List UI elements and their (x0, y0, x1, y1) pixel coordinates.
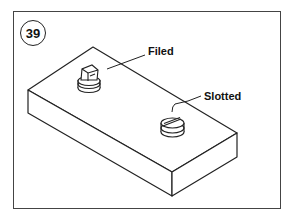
filed-label: Filed (148, 45, 174, 57)
block-illustration (0, 0, 292, 218)
slotted-screw-icon (161, 118, 184, 138)
slotted-label: Slotted (204, 90, 241, 102)
diagram-canvas: 39 (0, 0, 292, 218)
